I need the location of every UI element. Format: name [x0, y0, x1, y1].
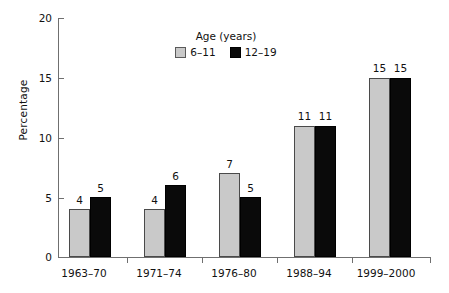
x-category-label-1963-70: 1963–70 [49, 268, 119, 279]
legend-item-age-12-19: 12–19 [230, 47, 277, 58]
x-category-label-1971-74: 1971–74 [124, 268, 194, 279]
x-axis-line [58, 257, 431, 258]
bar-value-1988-94-age-12-19: 11 [315, 111, 336, 122]
bar-1976-80-age-6-11 [219, 173, 240, 257]
bar-value-1963-70-age-6-11: 4 [69, 195, 90, 206]
bar-1999-2000-age-6-11 [369, 78, 390, 257]
bar-value-1971-74-age-12-19: 6 [165, 171, 186, 182]
bar-1963-70-age-6-11 [69, 209, 90, 257]
bar-1971-74-age-12-19 [165, 185, 186, 257]
y-tick-label-15: 15 [14, 73, 52, 84]
legend: Age (years) 6–11 12–19 [163, 30, 289, 58]
legend-title: Age (years) [163, 30, 289, 43]
x-tick-mark-4 [352, 257, 353, 263]
bar-1976-80-age-12-19 [240, 197, 261, 257]
bar-1999-2000-age-12-19 [390, 78, 411, 257]
x-tick-mark-3 [277, 257, 278, 263]
y-tick-label-0: 0 [14, 252, 52, 263]
bar-1971-74-age-6-11 [144, 209, 165, 257]
legend-items: 6–11 12–19 [163, 47, 289, 58]
y-tick-label-10: 10 [14, 133, 52, 144]
x-category-label-1976-80: 1976–80 [199, 268, 269, 279]
y-tick-label-20: 20 [14, 13, 52, 24]
bar-value-1999-2000-age-6-11: 15 [369, 63, 390, 74]
x-category-label-1988-94: 1988–94 [274, 268, 344, 279]
x-tick-mark-1 [127, 257, 128, 263]
x-category-label-1999-2000: 1999–2000 [347, 268, 425, 279]
x-tick-mark-2 [202, 257, 203, 263]
legend-item-age-6-11: 6–11 [175, 47, 215, 58]
bar-value-1976-80-age-6-11: 7 [219, 159, 240, 170]
bar-value-1971-74-age-6-11: 4 [144, 195, 165, 206]
bar-chart: Percentage 20 15 10 5 0 4 5 4 6 [0, 0, 449, 293]
light-gray-swatch-icon [175, 47, 186, 58]
bar-1988-94-age-12-19 [315, 126, 336, 258]
legend-item-label-age-6-11: 6–11 [190, 47, 215, 58]
x-tick-mark-5 [430, 257, 431, 263]
legend-item-label-age-12-19: 12–19 [245, 47, 277, 58]
bar-value-1988-94-age-6-11: 11 [294, 111, 315, 122]
bar-1963-70-age-12-19 [90, 197, 111, 257]
bar-1988-94-age-6-11 [294, 126, 315, 258]
bar-value-1963-70-age-12-19: 5 [90, 183, 111, 194]
black-swatch-icon [230, 47, 241, 58]
y-tick-label-5: 5 [14, 193, 52, 204]
bar-value-1976-80-age-12-19: 5 [240, 183, 261, 194]
bar-value-1999-2000-age-12-19: 15 [390, 63, 411, 74]
